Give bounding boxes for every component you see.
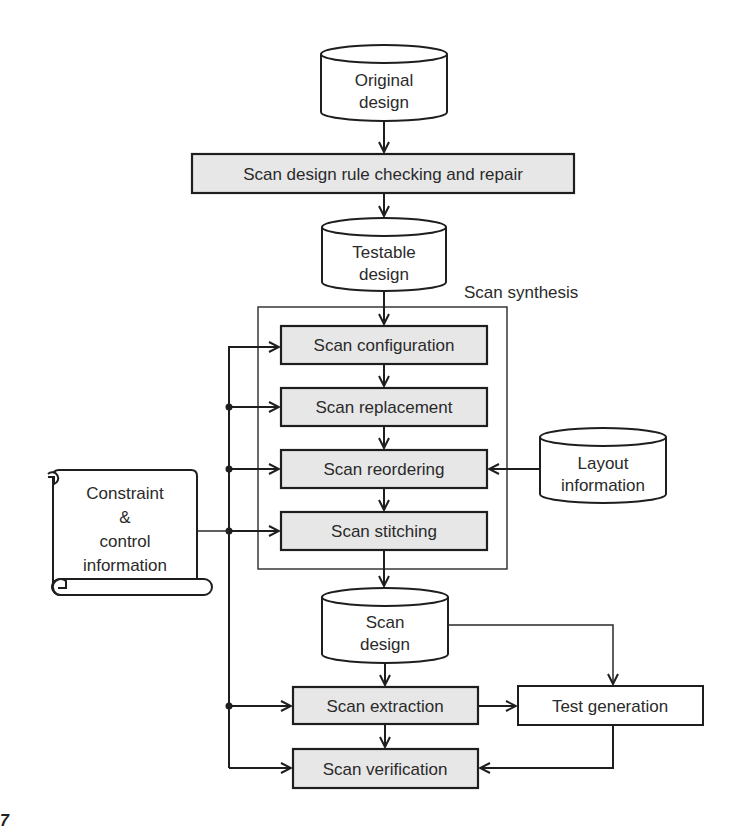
rule-check-label: Scan design rule checking and repair bbox=[243, 165, 523, 184]
layout-information-cylinder: Layout information bbox=[540, 428, 666, 503]
constraint-bus bbox=[197, 347, 291, 768]
constraint-scroll: Constraint & control information bbox=[48, 470, 212, 595]
scan-replacement-box: Scan replacement bbox=[281, 388, 487, 426]
scan-synthesis-label: Scan synthesis bbox=[464, 283, 578, 302]
scan-flow-diagram: Original design Scan design rule checkin… bbox=[0, 0, 750, 836]
constraint-line3: control bbox=[99, 532, 150, 551]
test-generation-box: Test generation bbox=[518, 686, 703, 725]
scan-reordering-label: Scan reordering bbox=[324, 460, 445, 479]
constraint-line2: & bbox=[119, 508, 131, 527]
constraint-line4: information bbox=[83, 556, 167, 575]
scan-verification-box: Scan verification bbox=[293, 749, 478, 788]
scan-configuration-box: Scan configuration bbox=[281, 326, 487, 364]
original-design-line2: design bbox=[359, 93, 409, 112]
edge-scandesign-to-testgen bbox=[448, 625, 613, 684]
scan-stitching-label: Scan stitching bbox=[331, 522, 437, 541]
testable-design-line1: Testable bbox=[352, 243, 415, 262]
scan-configuration-label: Scan configuration bbox=[314, 336, 455, 355]
scan-reordering-box: Scan reordering bbox=[281, 450, 487, 488]
figure-number-fragment: 7 bbox=[0, 812, 9, 830]
edge-bus-to-config bbox=[229, 347, 279, 768]
scan-design-line1: Scan bbox=[366, 613, 405, 632]
testable-design-cylinder: Testable design bbox=[322, 218, 446, 291]
scan-design-line2: design bbox=[360, 635, 410, 654]
original-design-line1: Original bbox=[355, 71, 414, 90]
test-generation-label: Test generation bbox=[552, 697, 668, 716]
layout-info-line1: Layout bbox=[577, 454, 628, 473]
original-design-cylinder: Original design bbox=[321, 45, 447, 121]
rule-check-box: Scan design rule checking and repair bbox=[192, 154, 574, 193]
scan-design-cylinder: Scan design bbox=[322, 588, 448, 663]
edge-testgen-to-verification bbox=[480, 725, 613, 768]
scan-extraction-box: Scan extraction bbox=[293, 687, 478, 724]
constraint-line1: Constraint bbox=[86, 484, 164, 503]
scan-replacement-label: Scan replacement bbox=[315, 398, 452, 417]
scan-stitching-box: Scan stitching bbox=[281, 512, 487, 550]
testable-design-line2: design bbox=[359, 265, 409, 284]
scan-verification-label: Scan verification bbox=[323, 760, 448, 779]
scan-extraction-label: Scan extraction bbox=[326, 697, 443, 716]
layout-info-line2: information bbox=[561, 476, 645, 495]
